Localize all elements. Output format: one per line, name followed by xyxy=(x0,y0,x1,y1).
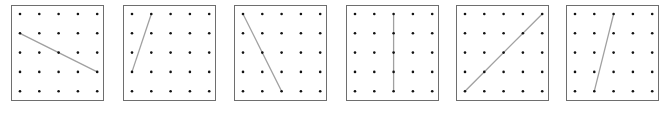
grid-dot xyxy=(261,71,264,74)
grid-dot xyxy=(150,13,153,16)
grid-dot xyxy=(261,13,264,16)
grid-dot xyxy=(261,90,264,93)
geoboard-panel-1 xyxy=(11,5,104,101)
grid-dot xyxy=(208,51,211,54)
grid-dot xyxy=(38,90,41,93)
geoboard-grid xyxy=(12,6,103,100)
grid-dot xyxy=(412,13,415,16)
grid-dot xyxy=(19,71,22,74)
grid-dot xyxy=(412,90,415,93)
grid-dot xyxy=(319,71,322,74)
grid-dot xyxy=(593,13,596,16)
grid-dot xyxy=(502,90,505,93)
grid-dot xyxy=(208,71,211,74)
line-segment xyxy=(132,14,151,72)
grid-dot xyxy=(392,90,395,93)
grid-dot xyxy=(651,71,654,74)
grid-dot xyxy=(651,90,654,93)
grid-dot xyxy=(412,71,415,74)
grid-dot xyxy=(19,90,22,93)
grid-dot xyxy=(96,90,99,93)
geoboard-panel-3 xyxy=(234,5,327,101)
grid-dot xyxy=(189,90,192,93)
geoboard-panel-5 xyxy=(456,5,549,101)
grid-dot xyxy=(354,13,357,16)
grid-dot xyxy=(169,51,172,54)
grid-dot xyxy=(483,13,486,16)
grid-dot xyxy=(651,13,654,16)
grid-dot xyxy=(612,13,615,16)
grid-dot xyxy=(392,13,395,16)
grid-dot xyxy=(208,90,211,93)
grid-dot xyxy=(354,51,357,54)
grid-dot xyxy=(632,90,635,93)
grid-dot xyxy=(57,71,60,74)
grid-dot xyxy=(280,32,283,35)
grid-dot xyxy=(574,13,577,16)
grid-dot xyxy=(150,32,153,35)
grid-dot xyxy=(522,71,525,74)
geoboard-grid xyxy=(457,6,548,100)
grid-dot xyxy=(19,13,22,16)
grid-dot xyxy=(541,71,544,74)
grid-dot xyxy=(96,32,99,35)
grid-dot xyxy=(483,32,486,35)
grid-dot xyxy=(522,90,525,93)
grid-dot xyxy=(483,71,486,74)
grid-dot xyxy=(319,90,322,93)
grid-dot xyxy=(189,71,192,74)
geoboard-panel-6 xyxy=(566,5,659,101)
grid-dot xyxy=(522,51,525,54)
grid-dot xyxy=(373,51,376,54)
grid-dot xyxy=(242,51,245,54)
grid-dot xyxy=(431,32,434,35)
grid-dot xyxy=(574,51,577,54)
grid-dot xyxy=(77,13,80,16)
grid-dot xyxy=(431,71,434,74)
grid-dot xyxy=(38,13,41,16)
grid-dot xyxy=(300,32,303,35)
grid-dot xyxy=(169,71,172,74)
grid-dot xyxy=(57,90,60,93)
grid-dot xyxy=(77,90,80,93)
grid-dot xyxy=(373,13,376,16)
grid-dot xyxy=(632,32,635,35)
grid-dot xyxy=(280,51,283,54)
grid-dot xyxy=(431,13,434,16)
grid-dot xyxy=(19,32,22,35)
grid-dot xyxy=(612,32,615,35)
grid-dot xyxy=(77,32,80,35)
grid-dot xyxy=(612,51,615,54)
grid-dot xyxy=(57,32,60,35)
grid-dot xyxy=(77,71,80,74)
grid-dot xyxy=(354,90,357,93)
grid-dot xyxy=(522,13,525,16)
grid-dot xyxy=(502,51,505,54)
geoboard-grid xyxy=(235,6,326,100)
grid-dot xyxy=(464,90,467,93)
grid-dot xyxy=(319,51,322,54)
grid-dot xyxy=(38,51,41,54)
grid-dot xyxy=(651,51,654,54)
grid-dot xyxy=(169,90,172,93)
grid-dot xyxy=(57,51,60,54)
grid-dot xyxy=(574,90,577,93)
grid-dot xyxy=(300,71,303,74)
grid-dot xyxy=(131,51,134,54)
grid-dot xyxy=(612,71,615,74)
grid-dot xyxy=(464,13,467,16)
grid-dot xyxy=(261,32,264,35)
grid-dot xyxy=(502,13,505,16)
grid-dot xyxy=(612,90,615,93)
grid-dot xyxy=(189,32,192,35)
grid-dot xyxy=(632,13,635,16)
geoboard-panel-4 xyxy=(346,5,439,101)
grid-dot xyxy=(373,32,376,35)
grid-dot xyxy=(392,51,395,54)
grid-dot xyxy=(169,32,172,35)
grid-dot xyxy=(354,71,357,74)
grid-dot xyxy=(593,90,596,93)
grid-dot xyxy=(77,51,80,54)
grid-dot xyxy=(38,71,41,74)
grid-dot xyxy=(242,32,245,35)
